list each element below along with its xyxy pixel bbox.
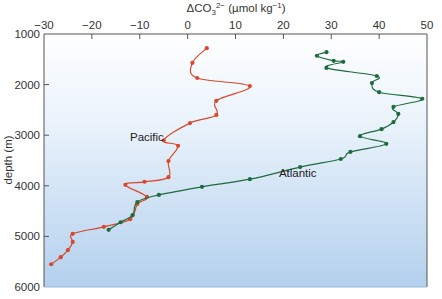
pacific-data-point [166,159,170,163]
atlantic-data-point [130,213,134,217]
atlantic-data-point [332,59,336,63]
pacific-data-point [142,180,146,184]
atlantic-data-point [339,157,343,161]
atlantic-data-point [248,177,252,181]
y-tick-label: 6000 [14,281,40,293]
pacific-data-point [190,61,194,65]
x-axis-title: ΔCO32− (µmol kg−1) [186,1,285,17]
pacific-data-point [195,76,199,80]
pacific-data-point [166,175,170,179]
atlantic-data-point [391,105,395,109]
pacific-data-point [176,144,180,148]
atlantic-data-point [315,54,319,58]
atlantic-data-point [375,74,379,78]
y-tick-label: 3000 [14,129,40,141]
atlantic-data-point [200,185,204,189]
atlantic-data-point [348,150,352,154]
pacific-data-point [214,113,218,117]
plot-background [44,34,427,287]
atlantic-data-point [119,220,123,224]
atlantic-data-point [377,90,381,94]
atlantic-data-point [157,193,161,197]
atlantic-data-point [420,97,424,101]
x-tick-label: 50 [421,19,434,31]
pacific-data-point [71,232,75,236]
x-tick-label: −20 [82,19,102,31]
x-tick-label: 10 [229,19,242,31]
x-tick-label: 0 [184,19,190,31]
pacific-data-point [59,255,63,259]
x-tick-label: −10 [130,19,150,31]
y-tick-label: 4000 [14,180,40,192]
pacific-data-point [49,262,53,266]
pacific-data-point [205,46,209,50]
depth-profile-chart: PacificAtlantic −30−20−10010203040501000… [0,0,442,299]
atlantic-data-point [384,142,388,146]
y-axis-title: depth (m) [2,135,14,184]
pacific-data-point [71,240,75,244]
pacific-data-point [66,248,70,252]
pacific-data-point [188,121,192,125]
atlantic-data-point [324,66,328,70]
y-tick-label: 5000 [14,230,40,242]
y-tick-label: 1000 [14,28,40,40]
atlantic-data-point [324,50,328,54]
atlantic-data-point [341,60,345,64]
x-tick-label: 20 [277,19,290,31]
pacific-data-point [214,99,218,103]
atlantic-data-point [358,134,362,138]
atlantic-data-point [379,127,383,131]
pacific-series-label: Pacific [130,131,164,143]
pacific-data-point [248,84,252,88]
atlantic-data-point [135,200,139,204]
pacific-data-point [102,225,106,229]
atlantic-data-point [396,112,400,116]
atlantic-series-label: Atlantic [279,167,317,179]
pacific-data-point [123,183,127,187]
atlantic-data-point [370,81,374,85]
x-tick-label: 40 [373,19,386,31]
atlantic-data-point [107,228,111,232]
x-tick-label: 30 [325,19,338,31]
atlantic-data-point [391,120,395,124]
y-tick-label: 2000 [14,79,40,91]
